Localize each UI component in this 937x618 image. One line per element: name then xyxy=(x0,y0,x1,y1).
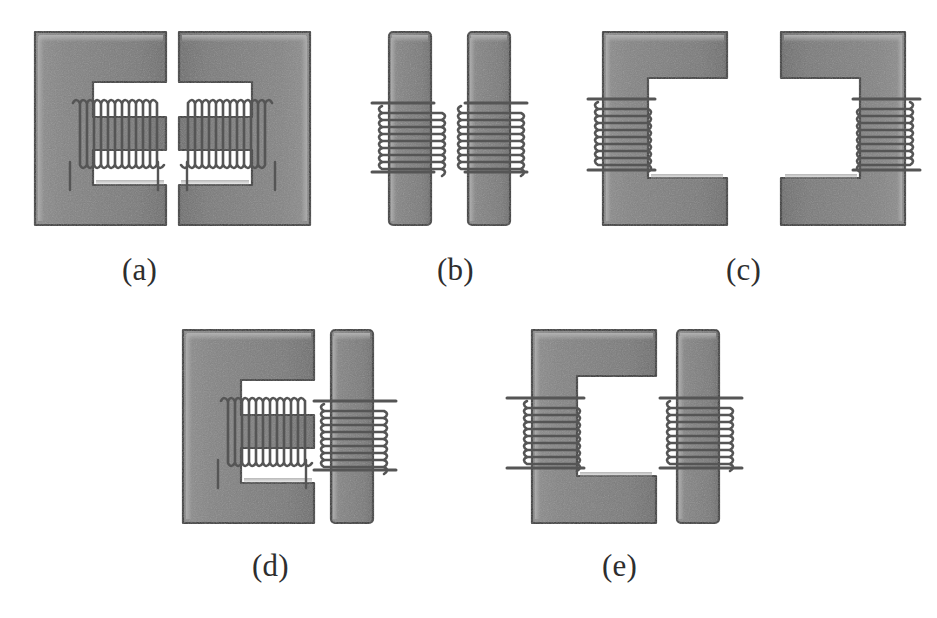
bar-left-highlight xyxy=(333,336,338,519)
panel-c-right-c-core xyxy=(781,32,905,225)
core-top-highlight xyxy=(784,35,902,42)
core-lower-arm-highlight xyxy=(96,180,164,186)
core-lower-arm-highlight xyxy=(181,180,249,186)
bar-left-highlight xyxy=(679,336,684,519)
panel-b-right-bar xyxy=(468,32,510,225)
panel-e-group xyxy=(507,330,742,523)
panel-label-b: (b) xyxy=(437,252,474,288)
core-top-highlight xyxy=(39,35,163,42)
panel-a-group xyxy=(35,32,310,225)
core-lower-arm-highlight xyxy=(785,174,857,180)
panel-label-a: (a) xyxy=(122,252,157,288)
core-top-highlight xyxy=(535,333,653,340)
bar-left-highlight xyxy=(391,38,396,221)
bar-top-highlight xyxy=(471,35,507,42)
panel-label-d: (d) xyxy=(252,548,289,584)
core-top-highlight xyxy=(182,35,306,42)
core-top-highlight xyxy=(606,35,724,42)
core-lower-arm-highlight xyxy=(580,472,652,478)
c-core-body xyxy=(603,32,727,225)
bar-top-highlight xyxy=(392,35,428,42)
panel-d-i-bar xyxy=(331,330,373,523)
panel-e-i-bar xyxy=(677,330,719,523)
c-core-body xyxy=(781,32,905,225)
c-core-body xyxy=(532,330,656,523)
panel-c-left-c-core xyxy=(603,32,727,225)
figure-root: (a) (b) (c) (d) (e) xyxy=(0,0,937,618)
core-left-highlight xyxy=(301,36,307,221)
bar-top-highlight xyxy=(680,333,716,340)
core-configurations-diagram xyxy=(0,0,937,618)
bar-top-highlight xyxy=(334,333,370,340)
panel-b-left-bar xyxy=(389,32,431,225)
core-left-highlight xyxy=(535,336,540,519)
core-lower-arm-highlight xyxy=(244,478,312,484)
panel-c-group xyxy=(588,32,920,225)
panel-label-e: (e) xyxy=(602,548,637,584)
core-left-highlight xyxy=(186,334,192,519)
core-lower-arm-highlight xyxy=(651,174,723,180)
panel-label-c: (c) xyxy=(726,252,761,288)
bar-left-highlight xyxy=(470,38,475,221)
panel-d-group xyxy=(183,330,396,523)
panel-e-c-core xyxy=(532,330,656,523)
panel-b-group xyxy=(372,32,527,225)
core-top-highlight xyxy=(187,333,311,340)
core-left-highlight xyxy=(38,36,44,221)
